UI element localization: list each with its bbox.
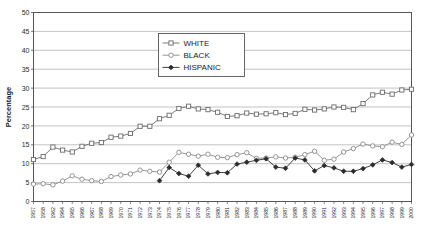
data-point-marker [380,90,384,94]
x-tick-label: 1974 [156,207,162,219]
data-point-marker [138,168,142,172]
x-tick-label: 1998 [389,207,395,219]
data-point-marker [235,114,239,118]
x-axis-ticks: 1957195819621964196519661967196819691970… [30,202,414,219]
data-point-marker [245,151,249,155]
data-point-marker [41,182,45,186]
data-point-marker [351,169,356,174]
data-point-marker [157,170,161,174]
data-point-marker [293,111,297,115]
data-point-marker [264,112,268,116]
x-tick-label: 1967 [89,207,95,219]
data-point-marker [371,93,375,97]
data-point-marker [186,104,190,108]
chart-legend: WHITEBLACKHISPANIC [159,34,245,77]
data-point-marker [332,157,336,161]
y-tick-label: 45 [22,28,30,35]
x-tick-label: 1987 [282,207,288,219]
x-tick-label: 1980 [215,207,221,219]
data-point-marker [312,108,316,112]
data-point-marker [196,107,200,111]
data-point-marker [303,152,307,156]
data-point-marker [235,152,239,156]
data-point-marker [206,108,210,112]
x-tick-label: 1989 [302,207,308,219]
data-point-marker [409,87,413,91]
data-point-marker [128,172,132,176]
x-tick-label: 1984 [253,207,259,219]
y-tick-label: 50 [22,9,30,16]
data-point-marker [148,169,152,173]
legend-label-black: BLACK [184,51,211,60]
data-point-marker [31,157,35,161]
data-point-marker [128,131,132,135]
data-series-group [31,87,414,187]
data-point-marker [399,165,404,170]
data-point-marker [390,160,395,165]
series-white [31,87,413,162]
x-tick-label: 1970 [118,207,124,219]
data-point-marker [176,171,181,176]
data-point-marker [341,150,345,154]
data-point-marker [177,150,181,154]
data-point-marker [167,113,171,117]
data-point-marker [80,144,84,148]
data-point-marker [361,166,366,171]
data-point-marker [341,169,346,174]
x-tick-label: 1962 [50,207,56,219]
data-point-marker [380,144,384,148]
data-point-marker [157,117,161,121]
data-point-marker [371,144,375,148]
x-tick-label: 1988 [292,207,298,219]
data-point-marker [380,158,385,163]
data-point-marker [351,146,355,150]
x-tick-label: 1969 [108,207,114,219]
data-point-marker [254,112,258,116]
data-point-marker [99,179,103,183]
data-point-marker [215,170,220,175]
data-point-marker [322,107,326,111]
data-point-marker [332,165,337,170]
data-point-marker [138,124,142,128]
x-tick-label: 1978 [195,207,201,219]
data-point-marker [390,92,394,96]
x-tick-label: 1997 [379,207,385,219]
data-point-marker [216,110,220,114]
data-point-marker [31,182,35,186]
data-point-marker [390,140,394,144]
x-tick-label: 1957 [30,207,36,219]
data-point-marker [361,101,365,105]
data-point-marker [409,162,414,167]
data-point-marker [225,114,229,118]
y-tick-label: 5 [26,179,30,186]
data-point-marker [109,135,113,139]
data-point-marker [51,145,55,149]
x-tick-label: 1972 [137,207,143,219]
data-point-marker [60,148,64,152]
x-tick-label: 1958 [40,207,46,219]
x-tick-label: 2000 [408,207,414,219]
data-point-marker [400,88,404,92]
data-point-marker [60,179,64,183]
data-point-marker [80,177,84,181]
data-point-marker [225,155,229,159]
legend-marker-white [169,41,173,45]
data-point-marker [109,174,113,178]
x-tick-label: 1991 [321,207,327,219]
data-point-marker [312,149,316,153]
x-tick-label: 1973 [147,207,153,219]
line-chart: 05101520253035404550 1957195819621964196… [0,0,423,228]
x-tick-label: 1971 [127,207,133,219]
data-point-marker [119,134,123,138]
x-tick-label: 1999 [399,207,405,219]
x-tick-label: 1975 [166,207,172,219]
data-point-marker [41,154,45,158]
y-tick-label: 10 [22,160,30,167]
legend-label-hispanic: HISPANIC [184,63,221,72]
data-point-marker [400,142,404,146]
data-point-marker [177,106,181,110]
data-point-marker [196,154,200,158]
data-point-marker [370,162,375,167]
y-tick-label: 35 [22,66,30,73]
data-point-marker [215,155,219,159]
